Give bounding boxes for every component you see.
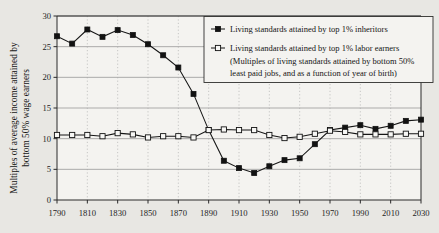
x-tick-label: 1950 bbox=[291, 208, 308, 218]
y-tick-label: 10 bbox=[42, 134, 51, 144]
legend-note-line: (Multiples of living standards attained … bbox=[230, 56, 414, 66]
legend-note-line: least paid jobs, and as a function of ye… bbox=[230, 68, 397, 78]
x-tick-label: 1790 bbox=[48, 208, 65, 218]
data-point-marker bbox=[282, 158, 287, 163]
data-point-marker bbox=[418, 131, 423, 136]
chart-legend: Living standards attained by top 1% inhe… bbox=[204, 17, 433, 83]
data-point-marker bbox=[403, 118, 408, 123]
data-point-marker bbox=[312, 131, 317, 136]
data-point-marker bbox=[327, 128, 332, 133]
data-point-marker bbox=[85, 132, 90, 137]
y-tick-label: 25 bbox=[42, 42, 51, 52]
data-point-marker bbox=[130, 33, 135, 38]
data-point-marker bbox=[373, 132, 378, 137]
data-point-marker bbox=[115, 131, 120, 136]
data-point-marker bbox=[297, 156, 302, 161]
data-point-marker bbox=[115, 28, 120, 33]
data-point-marker bbox=[252, 127, 257, 132]
data-point-marker bbox=[312, 142, 317, 147]
y-axis-title-line-1: Multiples of average income attained by bbox=[9, 42, 19, 194]
data-point-marker bbox=[297, 134, 302, 139]
data-point-marker bbox=[358, 123, 363, 128]
data-point-marker bbox=[358, 132, 363, 137]
income-multiples-line-chart: 051015202530 179018101830185018701890191… bbox=[0, 0, 439, 233]
data-point-marker bbox=[70, 41, 75, 46]
data-point-marker bbox=[145, 135, 150, 140]
data-point-marker bbox=[206, 127, 211, 132]
data-point-marker bbox=[176, 134, 181, 139]
legend-entry-1[interactable]: Living standards attained by top 1% inhe… bbox=[211, 24, 388, 34]
x-tick-label: 1970 bbox=[321, 208, 338, 218]
y-axis-title-line-2: bottom 50% wage earners bbox=[21, 69, 31, 167]
x-tick-label: 2010 bbox=[382, 208, 399, 218]
legend-open-square-icon bbox=[215, 45, 220, 50]
x-tick-label: 2030 bbox=[412, 208, 429, 218]
data-point-marker bbox=[55, 34, 60, 39]
data-point-marker bbox=[221, 158, 226, 163]
data-point-marker bbox=[100, 134, 105, 139]
data-point-marker bbox=[282, 135, 287, 140]
x-tick-label: 1850 bbox=[139, 208, 156, 218]
legend-filled-square-icon bbox=[215, 26, 220, 31]
data-point-marker bbox=[236, 127, 241, 132]
data-point-marker bbox=[100, 34, 105, 39]
data-point-marker bbox=[221, 127, 226, 132]
x-tick-label: 1830 bbox=[109, 208, 126, 218]
data-point-marker bbox=[237, 166, 242, 171]
legend-label: Living standards attained by top 1% labo… bbox=[230, 43, 399, 53]
data-point-marker bbox=[388, 123, 393, 128]
data-point-marker bbox=[403, 131, 408, 136]
x-tick-label: 1870 bbox=[170, 208, 187, 218]
y-tick-label: 20 bbox=[42, 72, 51, 82]
x-tick-label: 1810 bbox=[79, 208, 96, 218]
data-point-marker bbox=[130, 132, 135, 137]
y-tick-label: 0 bbox=[47, 195, 51, 205]
data-point-marker bbox=[176, 65, 181, 70]
y-tick-label: 15 bbox=[42, 103, 51, 113]
data-point-marker bbox=[85, 27, 90, 32]
data-point-marker bbox=[54, 132, 59, 137]
data-point-marker bbox=[267, 164, 272, 169]
x-tick-label: 1930 bbox=[261, 208, 278, 218]
data-point-marker bbox=[419, 117, 424, 122]
data-point-marker bbox=[267, 132, 272, 137]
data-point-marker bbox=[343, 129, 348, 134]
data-point-marker bbox=[191, 135, 196, 140]
legend-entry-2[interactable]: Living standards attained by top 1% labo… bbox=[211, 43, 414, 78]
data-point-marker bbox=[191, 91, 196, 96]
y-tick-label: 30 bbox=[42, 11, 51, 21]
chart-figure: 051015202530 179018101830185018701890191… bbox=[0, 0, 439, 233]
legend-label: Living standards attained by top 1% inhe… bbox=[230, 24, 388, 34]
data-point-marker bbox=[161, 134, 166, 139]
x-tick-label: 1910 bbox=[230, 208, 247, 218]
data-point-marker bbox=[373, 126, 378, 131]
data-point-marker bbox=[388, 132, 393, 137]
data-point-marker bbox=[161, 53, 166, 58]
y-tick-label: 5 bbox=[47, 164, 51, 174]
data-point-marker bbox=[146, 42, 151, 47]
data-point-marker bbox=[252, 171, 257, 176]
x-tick-label: 1990 bbox=[352, 208, 369, 218]
x-tick-label: 1890 bbox=[200, 208, 217, 218]
data-point-marker bbox=[70, 132, 75, 137]
